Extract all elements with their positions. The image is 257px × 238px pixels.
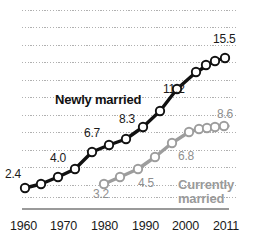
- data-label-4-0: 4.0: [50, 152, 66, 164]
- series-label-currently-line1: Currently: [178, 178, 234, 192]
- data-label-8-3: 8.3: [119, 113, 135, 125]
- data-point: [221, 54, 229, 62]
- data-label-6-8: 6.8: [178, 150, 194, 162]
- data-point: [54, 173, 62, 181]
- x-tick-2000: 2000: [172, 219, 199, 233]
- data-point: [202, 61, 210, 69]
- series-label-currently-married: Currently married: [178, 178, 234, 206]
- x-tick-1960: 1960: [10, 219, 37, 233]
- data-point: [88, 148, 96, 156]
- series-label-newly-married: Newly married: [55, 92, 141, 107]
- data-point: [156, 107, 164, 115]
- data-point: [122, 135, 130, 143]
- data-label-4-5: 4.5: [138, 177, 154, 189]
- data-point: [37, 180, 45, 188]
- x-tick-2011: 2011: [213, 219, 239, 233]
- data-point: [192, 68, 200, 76]
- data-point: [220, 122, 228, 130]
- data-point: [21, 184, 29, 192]
- data-label-8-6: 8.6: [217, 108, 233, 120]
- data-point: [211, 57, 219, 65]
- data-point: [151, 153, 159, 161]
- data-point: [203, 124, 211, 132]
- data-label-6-7: 6.7: [84, 127, 100, 139]
- data-point: [168, 139, 176, 147]
- data-point: [105, 141, 113, 149]
- data-label-11-2: 11.2: [163, 83, 185, 95]
- data-point: [139, 123, 147, 131]
- data-point: [211, 123, 219, 131]
- data-point: [185, 128, 193, 136]
- data-point: [71, 165, 79, 173]
- chart-container: 2.4 4.0 6.7 8.3 11.2 15.5 3.2 4.5 6.8 8.…: [0, 0, 257, 238]
- data-label-15-5: 15.5: [213, 33, 236, 45]
- data-point: [116, 173, 124, 181]
- x-tick-1970: 1970: [50, 219, 77, 233]
- x-tick-1980: 1980: [91, 219, 118, 233]
- series-label-currently-line2: married: [178, 192, 234, 206]
- data-point: [195, 125, 203, 133]
- data-label-2-4: 2.4: [5, 168, 21, 180]
- x-tick-1990: 1990: [132, 219, 159, 233]
- data-label-3-2: 3.2: [93, 188, 109, 200]
- data-point: [134, 165, 142, 173]
